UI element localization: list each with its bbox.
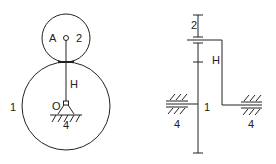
label-o: O xyxy=(52,100,61,112)
gear-train-diagram: A 2 H 1 O 4 xyxy=(0,0,276,164)
side-view-labels: 2 H 1 4 4 xyxy=(174,19,254,130)
side-label-frame-left: 4 xyxy=(174,118,180,130)
front-view-labels: A 2 H 1 O 4 xyxy=(10,32,82,131)
side-label-gear-1: 1 xyxy=(204,101,210,113)
label-gear-2: 2 xyxy=(76,32,82,44)
support-right-leg xyxy=(68,105,74,114)
label-frame-4: 4 xyxy=(63,119,69,131)
pivot-a-joint xyxy=(64,36,69,41)
label-gear-1: 1 xyxy=(10,101,16,113)
label-a: A xyxy=(49,32,57,44)
side-view xyxy=(166,15,262,153)
label-h: H xyxy=(70,78,78,90)
side-label-h: H xyxy=(212,54,220,66)
side-label-gear-2: 2 xyxy=(191,19,197,31)
side-label-frame-right: 4 xyxy=(248,118,254,130)
pivot-o-joint xyxy=(64,101,69,105)
